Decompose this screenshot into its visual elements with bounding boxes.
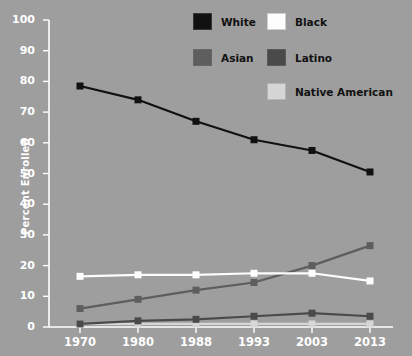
series-asian xyxy=(77,242,374,312)
data-point-marker xyxy=(77,83,84,90)
y-tick-label: 10 xyxy=(9,290,35,301)
data-point-marker xyxy=(309,147,316,154)
data-point-marker xyxy=(309,320,316,327)
data-point-marker xyxy=(77,273,84,280)
legend-swatch-icon xyxy=(267,13,286,30)
y-tick-label: 60 xyxy=(9,137,35,148)
data-point-marker xyxy=(367,277,374,284)
legend-label: Black xyxy=(295,16,327,28)
y-tick-label: 30 xyxy=(9,229,35,240)
data-point-marker xyxy=(251,313,258,320)
legend-item: Asian xyxy=(193,49,254,66)
legend-swatch-icon xyxy=(193,49,212,66)
data-point-marker xyxy=(193,271,200,278)
legend-label: Asian xyxy=(221,52,254,64)
data-point-marker xyxy=(135,96,142,103)
x-tick-label: 2003 xyxy=(290,336,334,348)
legend-swatch-icon xyxy=(267,49,286,66)
y-tick-label: 90 xyxy=(9,45,35,56)
legend-item: Black xyxy=(267,13,327,30)
data-point-marker xyxy=(135,271,142,278)
series-black xyxy=(77,270,374,285)
data-point-marker xyxy=(77,305,84,312)
chart-container: Percent Enrolled 1009080706050403020100 … xyxy=(0,0,412,356)
y-tick-label: 40 xyxy=(9,198,35,209)
data-point-marker xyxy=(309,310,316,317)
y-tick-label: 0 xyxy=(9,321,35,332)
x-tick-label: 1993 xyxy=(232,336,276,348)
y-tick-label: 100 xyxy=(9,14,35,25)
data-point-marker xyxy=(367,313,374,320)
data-point-marker xyxy=(251,320,258,327)
legend-swatch-icon xyxy=(267,83,286,100)
legend-label: White xyxy=(221,16,256,28)
x-tick-label: 1970 xyxy=(58,336,102,348)
data-point-marker xyxy=(135,296,142,303)
legend-swatch-icon xyxy=(193,13,212,30)
x-tick-label: 2013 xyxy=(348,336,392,348)
x-tick-label: 1980 xyxy=(116,336,160,348)
legend-item: Native American xyxy=(267,83,393,100)
y-tick-label: 50 xyxy=(9,168,35,179)
data-point-marker xyxy=(193,287,200,294)
data-point-marker xyxy=(367,320,374,327)
data-point-marker xyxy=(367,242,374,249)
series-line xyxy=(80,273,370,281)
data-point-marker xyxy=(309,262,316,269)
legend-label: Native American xyxy=(295,86,393,98)
data-point-marker xyxy=(251,270,258,277)
data-point-marker xyxy=(309,270,316,277)
data-point-marker xyxy=(251,136,258,143)
series-line xyxy=(80,313,370,324)
y-tick-label: 80 xyxy=(9,75,35,86)
y-tick-label: 70 xyxy=(9,106,35,117)
data-point-marker xyxy=(251,279,258,286)
data-point-marker xyxy=(193,316,200,323)
legend-label: Latino xyxy=(295,52,332,64)
y-tick-label: 20 xyxy=(9,260,35,271)
data-point-marker xyxy=(193,118,200,125)
legend-item: Latino xyxy=(267,49,332,66)
x-tick-label: 1988 xyxy=(174,336,218,348)
legend-item: White xyxy=(193,13,256,30)
data-point-marker xyxy=(367,168,374,175)
series-line xyxy=(80,246,370,309)
data-point-marker xyxy=(135,317,142,324)
data-point-marker xyxy=(77,320,84,327)
